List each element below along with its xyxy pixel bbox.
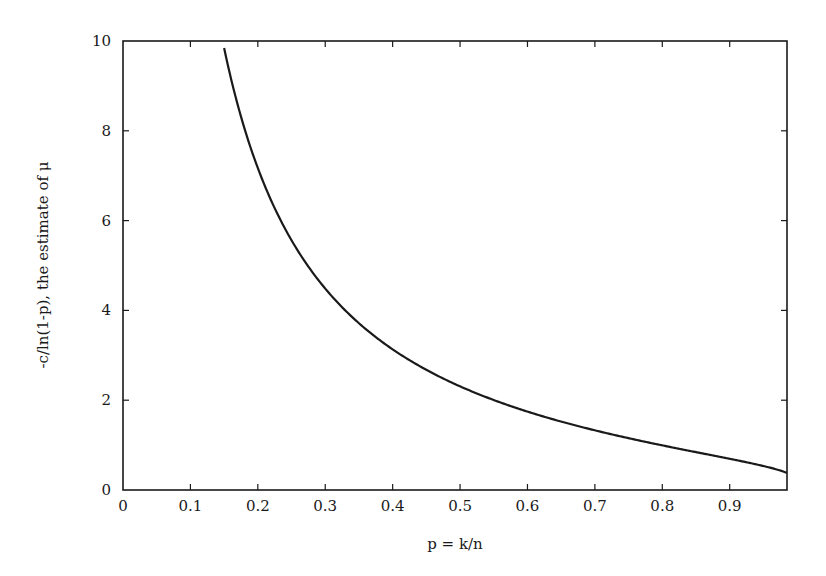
y-axis-label: -c/ln(1-p), the estimate of μ (34, 161, 52, 368)
y-tick-label: 8 (101, 122, 111, 140)
x-tick-label: 0 (118, 497, 128, 515)
y-axis-ticks: 0246810 (92, 32, 787, 499)
y-tick-label: 4 (101, 301, 111, 319)
plot-frame (123, 41, 787, 490)
plot-border (123, 41, 787, 490)
x-axis-label: p = k/n (427, 535, 483, 553)
x-axis-ticks: 00.10.20.30.40.50.60.70.80.9 (118, 41, 741, 515)
x-tick-label: 0.6 (516, 497, 540, 515)
x-tick-label: 0.1 (178, 497, 202, 515)
x-tick-label: 0.4 (381, 497, 405, 515)
x-tick-label: 0.8 (650, 497, 674, 515)
data-curve (224, 48, 787, 473)
x-tick-label: 0.7 (583, 497, 607, 515)
x-tick-label: 0.3 (313, 497, 337, 515)
line-chart: 00.10.20.30.40.50.60.70.80.9 0246810 p =… (0, 0, 826, 576)
y-tick-label: 0 (101, 481, 111, 499)
x-tick-label: 0.2 (246, 497, 270, 515)
x-tick-label: 0.5 (448, 497, 472, 515)
x-tick-label: 0.9 (718, 497, 742, 515)
y-tick-label: 2 (101, 391, 111, 409)
y-tick-label: 6 (101, 212, 111, 230)
y-tick-label: 10 (92, 32, 111, 50)
